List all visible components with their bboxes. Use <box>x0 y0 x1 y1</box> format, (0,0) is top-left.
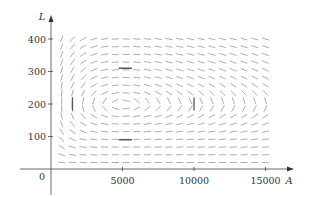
field-segment <box>241 76 247 79</box>
x-axis: 5000 10000 15000 A <box>20 167 294 187</box>
field-segment <box>61 121 63 127</box>
field-segment <box>252 123 258 125</box>
field-segment <box>241 46 247 48</box>
field-segment <box>241 69 247 71</box>
field-segment <box>144 69 150 70</box>
field-segment <box>198 38 204 39</box>
field-segment <box>220 46 226 48</box>
field-segment <box>91 61 97 63</box>
field-segment <box>189 106 193 111</box>
field-segment <box>102 106 106 111</box>
field-segment <box>70 44 74 49</box>
field-segment <box>252 131 258 132</box>
origin-label: 0 <box>39 171 45 182</box>
field-segment <box>254 98 256 104</box>
field-segment <box>101 46 107 47</box>
field-segment <box>230 53 236 55</box>
field-segment <box>231 115 236 118</box>
field-segment <box>252 46 258 48</box>
field-segment <box>219 131 225 132</box>
field-segment <box>232 106 235 112</box>
field-segment <box>253 91 257 96</box>
field-segment <box>198 46 204 48</box>
field-segment <box>144 62 150 63</box>
field-segment <box>177 61 183 63</box>
field-segment <box>70 52 74 57</box>
y-tick-200: 200 <box>28 99 46 110</box>
field-segment <box>166 38 172 39</box>
field-segment <box>81 83 85 88</box>
field-segment <box>230 76 236 79</box>
field-segment <box>112 92 118 93</box>
field-segment <box>209 84 215 87</box>
field-segment <box>101 39 107 40</box>
field-segment <box>177 91 182 95</box>
field-segment <box>103 98 106 103</box>
field-segment <box>80 53 85 56</box>
direction-field-chart: 5000 10000 15000 A 100 200 300 400 L 0 <box>0 0 311 198</box>
field-segment <box>198 115 204 118</box>
field-segment <box>209 131 215 132</box>
field-segment <box>134 54 140 55</box>
field-segment <box>241 131 247 132</box>
field-segment <box>166 61 172 62</box>
field-segment <box>144 131 150 132</box>
field-segment <box>252 114 257 117</box>
field-segment <box>198 131 204 132</box>
field-segment <box>69 154 75 155</box>
y-tick-400: 400 <box>28 34 46 45</box>
field-segment <box>93 98 95 104</box>
field-segment <box>146 98 150 103</box>
field-segment <box>188 91 193 95</box>
field-segment <box>230 139 236 140</box>
field-segment <box>61 51 63 57</box>
field-segment <box>177 69 183 71</box>
field-segment <box>134 116 140 117</box>
field-segment <box>91 38 97 40</box>
field-segment <box>177 54 183 55</box>
field-segment <box>144 39 150 40</box>
field-segment <box>83 98 84 104</box>
field-segment <box>252 53 258 55</box>
field-segment <box>71 67 74 72</box>
field-segment <box>178 98 181 104</box>
field-segment <box>123 100 129 101</box>
field-segment <box>222 98 224 104</box>
field-segment <box>262 131 268 132</box>
field-segment <box>252 84 257 88</box>
field-segment <box>112 85 118 86</box>
field-segment <box>264 106 267 112</box>
field-segment <box>198 76 204 78</box>
field-segment <box>102 69 108 70</box>
field-segment <box>187 131 193 132</box>
field-segment <box>263 84 268 88</box>
field-segment <box>113 99 119 102</box>
x-axis-label: A <box>284 175 292 186</box>
field-segment <box>144 46 150 47</box>
field-segment <box>61 59 63 65</box>
field-segment <box>209 69 215 71</box>
field-segment <box>80 139 86 140</box>
field-segment <box>71 113 74 119</box>
field-segment <box>80 122 85 125</box>
field-segment <box>72 90 74 96</box>
field-segment <box>102 92 108 95</box>
field-segment <box>80 147 86 148</box>
field-segment <box>177 84 183 87</box>
field-segment <box>188 115 194 118</box>
field-segment <box>70 138 76 141</box>
field-segment <box>112 116 118 117</box>
field-segment <box>178 106 182 111</box>
field-segment <box>82 90 85 96</box>
field-segment <box>220 61 226 63</box>
field-segment <box>252 61 258 63</box>
field-segment <box>91 69 97 72</box>
field-segment <box>177 38 183 39</box>
field-segment <box>134 70 140 71</box>
field-segment <box>166 115 172 117</box>
field-segment <box>188 84 194 87</box>
field-segment <box>189 98 192 104</box>
field-segment <box>209 46 215 48</box>
field-segment <box>231 91 236 95</box>
field-segment <box>252 76 258 79</box>
